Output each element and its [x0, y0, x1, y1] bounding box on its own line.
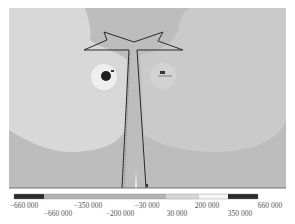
legend-label-top-0: −660 000 — [10, 201, 39, 210]
legend-label-bottom-0: −660 000 — [44, 209, 73, 218]
contour-plot — [0, 0, 295, 224]
legend-colorbar — [14, 194, 258, 199]
right-marker-icon — [160, 71, 165, 74]
legend-label-top-4: 660 000 — [258, 201, 282, 210]
legend-label-top-2: −30 000 — [135, 201, 160, 210]
left-hole-core — [101, 71, 111, 81]
stem-marker-icon — [146, 184, 148, 187]
legend-label-top-3: 200 000 — [195, 201, 219, 210]
legend-label-top-1: −350 000 — [74, 201, 103, 210]
legend-label-bottom-3: 350 000 — [228, 209, 252, 218]
legend-label-bottom-1: −200 000 — [106, 209, 135, 218]
left-marker-icon — [111, 70, 114, 72]
legend-label-bottom-2: 30 000 — [167, 209, 188, 218]
